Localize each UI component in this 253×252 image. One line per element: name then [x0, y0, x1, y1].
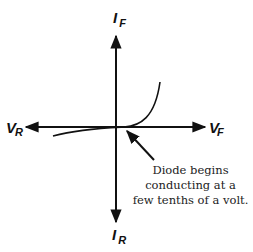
- label-if: IF: [113, 9, 126, 29]
- annotation-line: few tenths of a volt.: [128, 193, 253, 208]
- annotation-line: conducting at a: [128, 178, 253, 193]
- annotation-line: Diode begins: [128, 163, 253, 178]
- annotation-text: Diode begins conducting at a few tenths …: [128, 163, 253, 208]
- annotation-arrow: [127, 131, 154, 160]
- label-vr: VR: [6, 119, 23, 138]
- diode-iv-diagram: IF IR VR VF: [0, 0, 253, 252]
- label-ir: IR: [112, 226, 126, 246]
- label-vf: VF: [209, 119, 224, 138]
